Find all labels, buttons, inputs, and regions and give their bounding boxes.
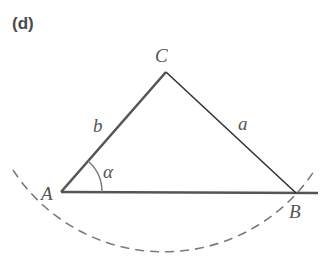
side-a: [166, 72, 296, 193]
vertex-label-c: C: [155, 45, 168, 66]
vertex-label-b: B: [289, 201, 301, 222]
side-b: [61, 72, 166, 192]
baseline-ab: [61, 192, 318, 193]
angle-alpha-arc: [88, 161, 102, 192]
angle-label-alpha: α: [103, 161, 114, 182]
vertex-label-a: A: [39, 183, 53, 204]
dashed-arc: [13, 168, 316, 252]
triangle-diagram: C A B b a α: [0, 0, 334, 260]
side-label-a: a: [238, 113, 248, 134]
side-label-b: b: [93, 115, 103, 136]
